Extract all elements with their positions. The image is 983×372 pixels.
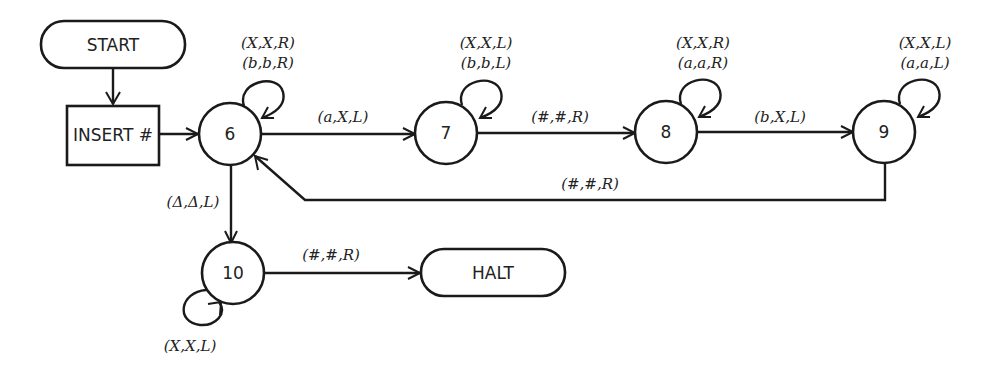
- loop-s9-label-2: (a,a,L): [900, 54, 949, 72]
- loop-s7-label-1: (X,X,L): [460, 34, 513, 52]
- edge-s8-s9-label: (b,X,L): [754, 108, 806, 126]
- loop-s9-label-1: (X,X,L): [899, 34, 952, 52]
- edge-s10-halt-label: (#,#,R): [302, 246, 360, 264]
- state-10-label: 10: [222, 263, 244, 283]
- insert-label: INSERT #: [73, 125, 153, 145]
- loop-s7-label-2: (b,b,L): [461, 54, 512, 72]
- loop-s8-label-1: (X,X,R): [676, 34, 730, 52]
- state-7-label: 7: [441, 123, 452, 143]
- state-8-label: 8: [661, 122, 672, 142]
- loop-s6-label-2: (b,b,R): [242, 54, 294, 72]
- loop-s6-label-1: (X,X,R): [241, 34, 295, 52]
- halt-label: HALT: [472, 263, 515, 283]
- loop-s8-label-2: (a,a,R): [678, 54, 729, 72]
- state-9-label: 9: [879, 122, 890, 142]
- edge-s7-s8-label: (#,#,R): [531, 108, 589, 126]
- start-label: START: [87, 35, 140, 55]
- state-6-label: 6: [225, 124, 236, 144]
- edge-s9-s6-label: (#,#,R): [561, 175, 619, 193]
- loop-s10-label: (X,X,L): [164, 337, 217, 355]
- edge-s6-s10-label: (Δ,Δ,L): [167, 193, 220, 211]
- state-diagram: START INSERT # 6 7 8 9 10 HALT (X,X,R) (…: [0, 0, 983, 372]
- edge-s6-s7-label: (a,X,L): [318, 108, 369, 126]
